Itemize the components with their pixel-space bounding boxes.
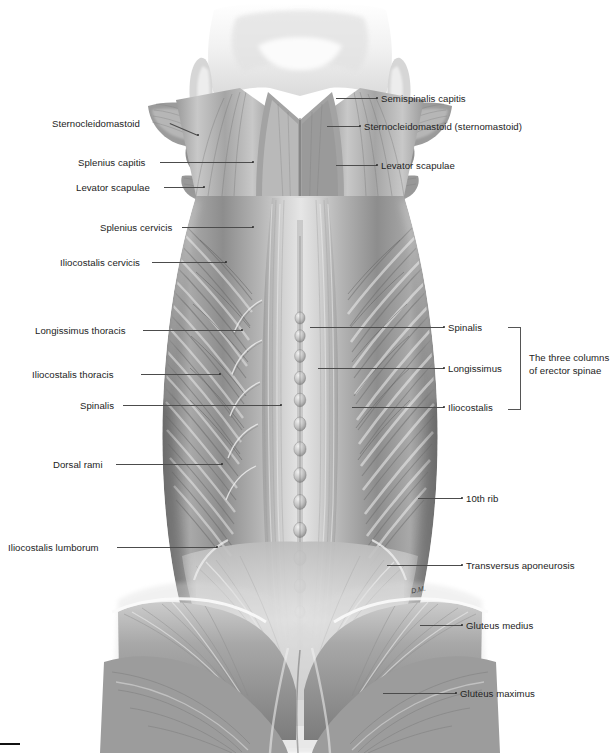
leader-line-gluteus-medius	[420, 625, 462, 626]
label-semispinalis-capitis: Semispinalis capitis	[381, 93, 466, 104]
label-sternocleidomastoid: Sternocleidomastoid	[52, 118, 140, 129]
label-iliocostalis-thoracis: Iliocostalis thoracis	[32, 369, 114, 380]
label-longissimus: Longissimus	[448, 363, 502, 374]
label-iliocostalis-cervicis: Iliocostalis cervicis	[60, 257, 140, 268]
label-gluteus-maximus: Gluteus maximus	[460, 688, 535, 699]
leader-line-splenius-cervicis	[182, 227, 253, 228]
leader-line-10th-rib	[418, 498, 462, 499]
leader-line-semispinalis-capitis	[336, 98, 377, 99]
leader-line-iliocostalis-cervicis	[152, 262, 226, 263]
bracket-caption-line1: The three columns	[529, 352, 609, 363]
bracket-caption: The three columns of erector spinae	[529, 352, 614, 377]
skull-occiput	[208, 3, 392, 101]
leader-line-longissimus-thoracis	[143, 330, 242, 331]
leader-line-sternocleidomastoid-sternomastoid	[327, 126, 360, 127]
label-spinalis: Spinalis	[80, 400, 114, 411]
label-longissimus-thoracis: Longissimus thoracis	[35, 325, 126, 336]
leader-line-iliocostalis-lumborum	[117, 547, 217, 548]
erector-spinae-bracket	[508, 327, 521, 410]
leader-line-spinalis	[310, 327, 444, 328]
label-iliocostalis: Iliocostalis	[448, 402, 493, 413]
label-splenius-capitis: Splenius capitis	[78, 157, 145, 168]
label-10th-rib: 10th rib	[466, 493, 498, 504]
label-levator-scapulae: Levator scapulae	[76, 182, 150, 193]
leader-line-levator-scapulae	[336, 165, 377, 166]
corner-crop-mark	[0, 743, 20, 745]
label-dorsal-rami: Dorsal rami	[53, 459, 103, 470]
leader-line-iliocostalis-thoracis	[141, 374, 220, 375]
label-spinalis: Spinalis	[448, 322, 482, 333]
label-iliocostalis-lumborum: Iliocostalis lumborum	[8, 542, 99, 553]
label-transversus-aponeurosis: Transversus aponeurosis	[466, 560, 575, 571]
leader-line-longissimus	[318, 368, 444, 369]
leader-line-iliocostalis	[352, 407, 444, 408]
leader-line-dorsal-rami	[116, 464, 222, 465]
leader-line-transversus-aponeurosis	[387, 565, 462, 566]
bracket-caption-line2: of erector spinae	[529, 365, 601, 376]
label-gluteus-medius: Gluteus medius	[466, 620, 533, 631]
leader-line-gluteus-maximus	[383, 693, 456, 694]
leader-line-splenius-capitis	[160, 162, 253, 163]
label-levator-scapulae: Levator scapulae	[381, 160, 455, 171]
leader-line-levator-scapulae	[164, 187, 204, 188]
label-splenius-cervicis: Splenius cervicis	[100, 222, 172, 233]
leader-line-spinalis	[123, 405, 281, 406]
label-sternocleidomastoid-sternomastoid: Sternocleidomastoid (sternomastoid)	[364, 121, 522, 132]
